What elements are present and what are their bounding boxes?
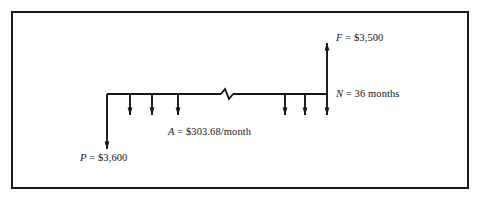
label-annuity-value: $303.68/month: [186, 126, 251, 137]
label-future-worth-equals: =: [343, 32, 354, 43]
label-present-worth-value: $3,600: [98, 152, 127, 163]
label-present-worth-equals: =: [87, 152, 98, 163]
label-periods: N = 36 months: [336, 88, 400, 99]
label-future-worth: F = $3,500: [336, 32, 383, 43]
annuity-arrows-early: [130, 94, 178, 115]
label-annuity-equals: =: [175, 126, 186, 137]
timeline-axis: [107, 89, 327, 99]
cash-flow-diagram-canvas: [0, 0, 485, 202]
timeline-break-zigzag-icon: [221, 89, 233, 99]
annuity-arrows-late: [285, 94, 327, 115]
cash-flow-figure: F = $3,500 N = 36 months A = $303.68/mon…: [0, 0, 485, 202]
label-future-worth-value: $3,500: [354, 32, 383, 43]
label-periods-equals: =: [343, 88, 354, 99]
label-present-worth: P = $3,600: [80, 152, 127, 163]
label-periods-value: 36 months: [355, 88, 400, 99]
label-annuity: A = $303.68/month: [168, 126, 251, 137]
